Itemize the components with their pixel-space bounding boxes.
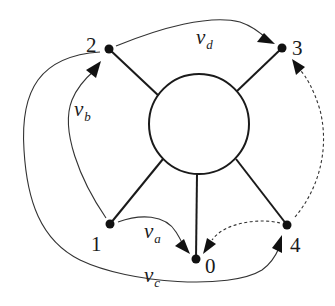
node-label-1: 1 <box>91 232 102 256</box>
edge-label-v-a: va <box>144 219 161 246</box>
node-0-dot <box>192 255 201 264</box>
network-diagram: 0 1 2 3 4 vd vb va vc <box>0 0 335 306</box>
node-label-2: 2 <box>86 33 97 57</box>
edge-label-v-c: vc <box>144 263 160 290</box>
arrowhead-v-b <box>86 61 101 78</box>
arrowhead-v-c <box>272 235 282 253</box>
edge-dashed-4-3 <box>295 70 324 217</box>
node-label-3: 3 <box>292 36 303 60</box>
spoke-hub-0 <box>196 174 197 259</box>
node-label-4: 4 <box>290 233 301 257</box>
edge-label-v-b: vb <box>74 97 91 124</box>
edge-dashed-4-0 <box>212 221 280 240</box>
arrowhead-dashed-4-0 <box>203 238 216 254</box>
node-1-dot <box>106 220 115 229</box>
hub-circle <box>149 74 249 174</box>
arrowhead-v-d <box>257 33 275 44</box>
spoke-hub-4 <box>236 159 287 225</box>
edge-label-v-d: vd <box>196 25 213 52</box>
spoke-hub-1 <box>110 159 163 224</box>
edge-v-b <box>68 70 106 218</box>
arrowhead-v-a <box>175 239 190 254</box>
node-3-dot <box>278 44 287 53</box>
node-label-0: 0 <box>205 254 216 278</box>
edge-v-d <box>116 20 268 46</box>
node-2-dot <box>105 45 114 54</box>
spoke-hub-2 <box>109 49 160 97</box>
node-4-dot <box>283 221 292 230</box>
spoke-hub-3 <box>236 48 282 92</box>
arrowhead-dashed-4-3 <box>292 59 305 75</box>
